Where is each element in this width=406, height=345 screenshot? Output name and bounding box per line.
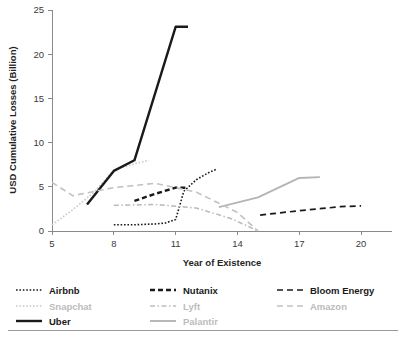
series-layer (52, 27, 361, 231)
legend-label-uber[interactable]: Uber (49, 316, 71, 327)
legend-label-airbnb[interactable]: Airbnb (49, 285, 80, 296)
series-line-snapchat (52, 160, 149, 225)
series-line-airbnb (114, 169, 217, 225)
legend-label-amazon[interactable]: Amazon (310, 301, 347, 312)
y-axis-title-group: USD Cumulative Losses (Billion) (7, 46, 18, 193)
series-line-uber (87, 27, 188, 205)
series-line-bloom-energy (260, 206, 361, 215)
x-axis-title: Year of Existence (183, 257, 262, 268)
y-tick-label: 5 (39, 181, 44, 192)
x-tick-label: 11 (171, 238, 181, 249)
chart-container: USD Cumulative Losses (Billion) 05101520… (0, 0, 406, 345)
legend-label-bloom-energy[interactable]: Bloom Energy (310, 285, 375, 296)
legend-label-nutanix[interactable]: Nutanix (183, 285, 219, 296)
y-tick-label: 10 (33, 137, 44, 148)
y-tick-label: 20 (33, 49, 44, 60)
y-tick-label: 25 (33, 4, 44, 15)
series-line-palantir (219, 177, 320, 207)
y-axis-title: USD Cumulative Losses (Billion) (7, 46, 18, 193)
x-axis-ticks: 5811141720 (49, 231, 366, 249)
legend-label-snapchat[interactable]: Snapchat (49, 301, 93, 312)
y-tick-label: 15 (33, 93, 44, 104)
legend-label-lyft[interactable]: Lyft (183, 301, 201, 312)
x-tick-label: 5 (49, 238, 54, 249)
y-axis-ticks: 0510152025 (33, 4, 52, 236)
x-tick-label: 20 (356, 238, 367, 249)
y-tick-label: 0 (39, 225, 44, 236)
series-line-nutanix (134, 188, 188, 201)
x-tick-label: 8 (111, 238, 116, 249)
legend-label-palantir[interactable]: Palantir (183, 316, 218, 327)
chart-legend: AirbnbNutanixBloom EnergySnapchatLyftAma… (16, 285, 375, 327)
x-tick-label: 17 (294, 238, 305, 249)
losses-line-chart: USD Cumulative Losses (Billion) 05101520… (0, 0, 406, 345)
series-line-lyft (114, 204, 258, 231)
x-tick-label: 14 (232, 238, 243, 249)
